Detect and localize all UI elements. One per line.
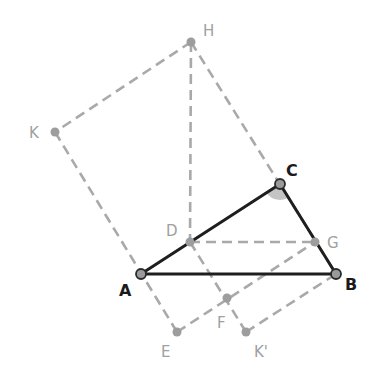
label-k: K — [29, 124, 40, 142]
dashed-segment-HD — [190, 42, 191, 242]
label-g: G — [327, 234, 339, 252]
point-k[interactable] — [51, 128, 60, 137]
dashed-segment-HK — [55, 42, 191, 132]
point-c[interactable] — [275, 179, 285, 189]
dashed-segment-KE — [55, 132, 177, 332]
label-c: C — [286, 161, 298, 180]
point-e[interactable] — [173, 328, 182, 337]
point-h[interactable] — [187, 38, 196, 47]
point-a[interactable] — [136, 269, 146, 279]
geometry-diagram: ABCDGHKEFK' — [0, 0, 378, 387]
label-d: D — [166, 222, 178, 240]
label-kp: K' — [254, 343, 268, 361]
point-labels: ABCDGHKEFK' — [29, 22, 357, 361]
point-b[interactable] — [331, 269, 341, 279]
dashed-segment-K'B — [246, 274, 336, 332]
label-b: B — [345, 275, 357, 294]
dashed-segment-EG — [177, 242, 315, 332]
point-d[interactable] — [186, 238, 195, 247]
construction-lines — [55, 42, 336, 332]
points — [51, 38, 342, 337]
point-kp[interactable] — [242, 328, 251, 337]
label-a: A — [119, 281, 132, 300]
point-g[interactable] — [311, 238, 320, 247]
label-e: E — [161, 343, 170, 361]
label-h: H — [203, 22, 214, 40]
point-f[interactable] — [223, 294, 232, 303]
label-f: F — [217, 314, 226, 332]
